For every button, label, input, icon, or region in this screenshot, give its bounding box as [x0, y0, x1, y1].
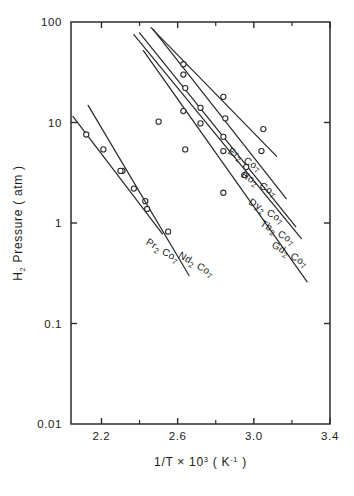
data-point-marker: [221, 148, 226, 153]
data-point-marker: [183, 147, 188, 152]
x-tick-label: 3.0: [245, 430, 263, 442]
data-point-marker: [131, 186, 136, 191]
data-point-marker: [223, 116, 228, 121]
y-tick-label: 0.1: [44, 318, 62, 330]
y-tick-label: 0.01: [37, 418, 62, 430]
data-point-marker: [156, 119, 161, 124]
data-point-marker: [181, 108, 186, 113]
x-tick-label: 2.2: [93, 430, 111, 442]
data-point-marker: [166, 229, 171, 234]
data-point-marker: [183, 85, 188, 90]
data-point-marker: [84, 132, 89, 137]
data-point-marker: [221, 134, 226, 139]
data-point-marker: [145, 206, 150, 211]
x-tick-label: 2.6: [169, 430, 187, 442]
y-tick-label: 10: [48, 117, 62, 129]
van-t-hoff-plot-figure: 2.22.63.03.41001010.10.01 Pr2 Co7Nd2 Co7…: [0, 0, 354, 496]
data-point-marker: [221, 94, 226, 99]
data-point-marker: [198, 105, 203, 110]
data-point-marker: [221, 190, 226, 195]
data-point-marker: [181, 72, 186, 77]
x-tick-label: 3.4: [321, 430, 339, 442]
data-point-marker: [118, 168, 123, 173]
y-tick-label: 1: [55, 217, 62, 229]
data-point-marker: [259, 148, 264, 153]
chart-canvas: 2.22.63.03.41001010.10.01 Pr2 Co7Nd2 Co7…: [0, 0, 354, 496]
data-point-marker: [101, 147, 106, 152]
data-point-marker: [198, 121, 203, 126]
data-point-marker: [181, 62, 186, 67]
y-axis-title: H2 Pressure ( atm ): [11, 165, 27, 281]
data-point-marker: [261, 126, 266, 131]
y-tick-label: 100: [41, 16, 62, 28]
